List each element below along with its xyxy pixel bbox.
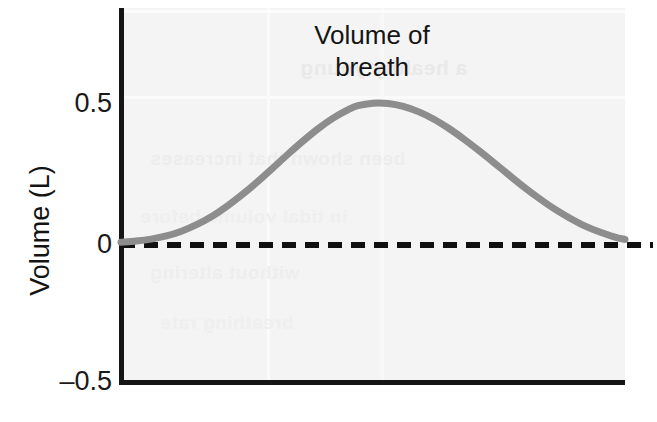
y-tick-label-0.5: 0.5: [74, 88, 112, 119]
chart-title-line-1: Volume of: [247, 20, 497, 52]
scan-seam-horizontal: [121, 96, 625, 99]
y-axis-title-text: Volume (L): [25, 165, 56, 296]
chart-title: Volume of breath: [247, 20, 497, 83]
chart-title-line-2: breath: [247, 52, 497, 84]
figure-container: a healthy young been shown that increase…: [0, 0, 657, 422]
x-axis-line: [119, 380, 625, 385]
y-axis-line: [119, 8, 124, 385]
y-tick-label-neg0.5: –0.5: [59, 366, 112, 397]
scan-seam-horizontal: [121, 10, 625, 13]
y-tick-label-0: 0: [97, 229, 112, 260]
y-axis-title: Volume (L): [0, 155, 80, 305]
